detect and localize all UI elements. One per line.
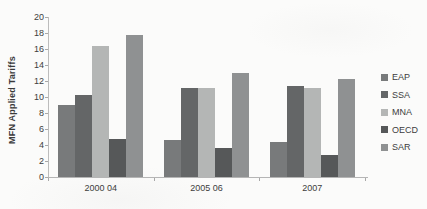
- x-axis-line: [45, 177, 368, 178]
- x-axis-category-label: 2000 04: [66, 183, 136, 193]
- legend-item-ssa: SSA: [381, 89, 418, 101]
- legend-item-oecd: OECD: [381, 124, 418, 136]
- legend-label: MNA: [392, 107, 412, 117]
- bar-ssa-2007: [287, 86, 304, 177]
- bar-sar-2000-04: [126, 35, 143, 177]
- bar-sar-2005-06: [232, 73, 249, 177]
- bar-eap-2000-04: [58, 105, 75, 177]
- y-axis-tick-label: 16: [20, 44, 44, 54]
- legend-swatch-icon: [381, 126, 388, 133]
- bar-oecd-2005-06: [215, 148, 232, 177]
- legend-item-eap: EAP: [381, 71, 418, 83]
- y-axis-tick-label: 0: [20, 172, 44, 182]
- bar-chart-figure: MFN Applied Tariffs 02468101214161820 20…: [0, 0, 427, 209]
- bar-mna-2007: [304, 88, 321, 177]
- plot-area: [48, 17, 365, 177]
- bar-eap-2007: [270, 142, 287, 177]
- legend-swatch-icon: [381, 109, 388, 116]
- x-axis-category-label: 2005 06: [172, 183, 242, 193]
- y-axis-tick-label: 12: [20, 76, 44, 86]
- bar-sar-2007: [338, 79, 355, 177]
- bar-mna-2000-04: [92, 46, 109, 177]
- bar-ssa-2005-06: [181, 88, 198, 177]
- bar-oecd-2000-04: [109, 139, 126, 177]
- y-axis-title: MFN Applied Tariffs: [7, 25, 19, 175]
- x-axis-tick-mark: [154, 178, 155, 181]
- bar-eap-2005-06: [164, 140, 181, 177]
- y-axis-tick-label: 4: [20, 140, 44, 150]
- y-axis-tick-label: 6: [20, 124, 44, 134]
- y-axis-tick-label: 18: [20, 28, 44, 38]
- legend: EAPSSAMNAOECDSAR: [381, 71, 418, 159]
- legend-label: SSA: [392, 90, 410, 100]
- bar-ssa-2000-04: [75, 95, 92, 177]
- x-axis-tick-mark: [259, 178, 260, 181]
- legend-item-sar: SAR: [381, 141, 418, 153]
- legend-swatch-icon: [381, 144, 388, 151]
- legend-label: EAP: [392, 72, 410, 82]
- y-axis-tick-label: 20: [20, 12, 44, 22]
- legend-swatch-icon: [381, 91, 388, 98]
- y-axis-tick-label: 8: [20, 108, 44, 118]
- x-axis-tick-mark: [365, 178, 366, 181]
- x-axis-tick-mark: [48, 178, 49, 181]
- y-axis-tick-label: 14: [20, 60, 44, 70]
- y-axis-tick-label: 2: [20, 156, 44, 166]
- legend-swatch-icon: [381, 74, 388, 81]
- legend-label: SAR: [392, 142, 411, 152]
- x-axis-category-label: 2007: [277, 183, 347, 193]
- y-axis-tick-label: 10: [20, 92, 44, 102]
- bar-oecd-2007: [321, 155, 338, 177]
- legend-label: OECD: [392, 125, 418, 135]
- bar-mna-2005-06: [198, 88, 215, 177]
- legend-item-mna: MNA: [381, 106, 418, 118]
